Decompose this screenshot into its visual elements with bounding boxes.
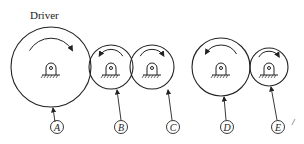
- gear-label-d: D: [222, 122, 231, 133]
- bearing-support-icon: [259, 63, 278, 78]
- gear-label-c: C: [170, 122, 177, 133]
- gear-d: D: [192, 38, 250, 134]
- bearing-support-icon: [41, 63, 60, 78]
- gear-b: B: [89, 45, 133, 134]
- gear-train-diagram: Driver ABCDE /: [0, 0, 304, 144]
- gear-label-a: A: [53, 122, 61, 133]
- clockwise-arrow-icon: [259, 51, 279, 57]
- leader-line: [53, 108, 55, 122]
- leader-line: [224, 97, 226, 120]
- leader-line: [168, 90, 172, 120]
- gear-label-e: E: [274, 122, 281, 133]
- gear-a: A: [11, 27, 91, 134]
- clockwise-arrow-icon: [140, 49, 164, 56]
- gear-e: E: [250, 48, 288, 134]
- gear-label-b: B: [118, 122, 124, 133]
- counterclockwise-arrow-icon: [99, 49, 123, 56]
- leader-line: [271, 87, 277, 120]
- bearing-support-icon: [211, 63, 230, 78]
- edge-fragment: /: [291, 117, 296, 127]
- leader-line: [117, 90, 121, 120]
- driver-label: Driver: [30, 9, 59, 21]
- gear-c: C: [130, 45, 180, 134]
- bearing-support-icon: [142, 63, 161, 78]
- counterclockwise-arrow-icon: [205, 45, 236, 54]
- bearing-support-icon: [101, 63, 120, 78]
- clockwise-arrow-icon: [30, 38, 73, 50]
